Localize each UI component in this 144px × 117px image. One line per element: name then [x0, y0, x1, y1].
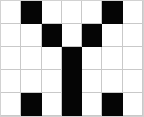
- grid-canvas: [0, 0, 144, 117]
- grid-cell[interactable]: [42, 70, 62, 93]
- grid-cell[interactable]: [62, 24, 82, 47]
- grid-cell[interactable]: [62, 70, 82, 93]
- grid-cell[interactable]: [1, 93, 21, 116]
- grid-cell[interactable]: [21, 93, 41, 116]
- grid-cell[interactable]: [1, 24, 21, 47]
- grid-cell[interactable]: [42, 93, 62, 116]
- grid-cell[interactable]: [62, 47, 82, 70]
- grid-cell[interactable]: [102, 1, 122, 24]
- grid-cell[interactable]: [82, 70, 102, 93]
- grid-cell[interactable]: [42, 24, 62, 47]
- grid-cell[interactable]: [123, 93, 143, 116]
- grid-cell[interactable]: [102, 93, 122, 116]
- grid-cell[interactable]: [42, 1, 62, 24]
- grid-cell[interactable]: [21, 70, 41, 93]
- grid-cell[interactable]: [1, 1, 21, 24]
- grid-cell[interactable]: [82, 1, 102, 24]
- grid-cell[interactable]: [1, 47, 21, 70]
- grid-cell[interactable]: [123, 1, 143, 24]
- grid-cell[interactable]: [42, 47, 62, 70]
- pattern-grid[interactable]: [1, 1, 143, 116]
- grid-cell[interactable]: [21, 24, 41, 47]
- grid-cell[interactable]: [82, 47, 102, 70]
- grid-cell[interactable]: [82, 24, 102, 47]
- grid-cell[interactable]: [102, 24, 122, 47]
- grid-cell[interactable]: [82, 93, 102, 116]
- grid-cell[interactable]: [1, 70, 21, 93]
- grid-cell[interactable]: [62, 93, 82, 116]
- grid-cell[interactable]: [102, 70, 122, 93]
- grid-cell[interactable]: [102, 47, 122, 70]
- grid-cell[interactable]: [62, 1, 82, 24]
- grid-cell[interactable]: [21, 1, 41, 24]
- grid-cell[interactable]: [123, 70, 143, 93]
- grid-cell[interactable]: [21, 47, 41, 70]
- grid-cell[interactable]: [123, 24, 143, 47]
- grid-cell[interactable]: [123, 47, 143, 70]
